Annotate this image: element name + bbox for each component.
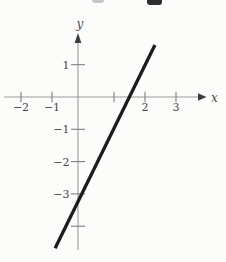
y-axis-arrowhead-icon bbox=[75, 33, 82, 43]
x-axis-label: x bbox=[211, 91, 218, 105]
y-tick-label: −3 bbox=[53, 188, 69, 201]
cropped-text-fragment-left bbox=[92, 0, 104, 3]
cropped-text-fragment-right bbox=[147, 0, 162, 5]
scanned-figure-page: x y −2−123 1−1−2−3 bbox=[0, 0, 226, 262]
x-tick-label: −1 bbox=[44, 101, 60, 114]
x-axis: x bbox=[4, 91, 218, 105]
y-tick-label: 1 bbox=[63, 59, 70, 72]
x-tick-label: −2 bbox=[13, 101, 29, 114]
x-tick-label: 3 bbox=[173, 101, 180, 114]
line-graph-canvas: x y −2−123 1−1−2−3 bbox=[0, 0, 226, 262]
x-axis-arrowhead-icon bbox=[198, 93, 207, 101]
y-axis-label: y bbox=[76, 17, 84, 31]
y-tick-label: −1 bbox=[53, 123, 69, 136]
x-axis-ticks: −2−123 bbox=[13, 92, 180, 114]
y-axis-ticks: 1−1−2−3 bbox=[53, 59, 85, 227]
x-tick-label: 2 bbox=[142, 101, 149, 114]
y-axis: y bbox=[75, 17, 84, 250]
y-tick-label: −2 bbox=[53, 156, 69, 169]
plotted-line bbox=[55, 45, 155, 248]
